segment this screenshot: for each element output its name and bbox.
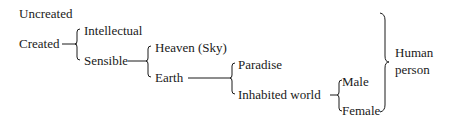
brace-earth (230, 63, 235, 94)
node-paradise: Paradise (238, 57, 282, 72)
node-male: Male (342, 74, 369, 89)
node-intellectual: Intellectual (84, 23, 142, 38)
node-sensible: Sensible (84, 53, 128, 68)
brace-created (75, 29, 80, 60)
node-uncreated: Uncreated (19, 6, 72, 21)
node-female: Female (342, 103, 380, 118)
node-created: Created (19, 36, 59, 51)
node-human-person-line1: Human (395, 45, 433, 60)
node-inhabited-world: Inhabited world (238, 87, 321, 102)
brace-sensible (146, 46, 151, 77)
brace-human-person (380, 13, 389, 112)
node-heaven: Heaven (Sky) (155, 40, 227, 55)
node-human-person-line2: person (395, 62, 430, 77)
node-earth: Earth (155, 70, 183, 85)
